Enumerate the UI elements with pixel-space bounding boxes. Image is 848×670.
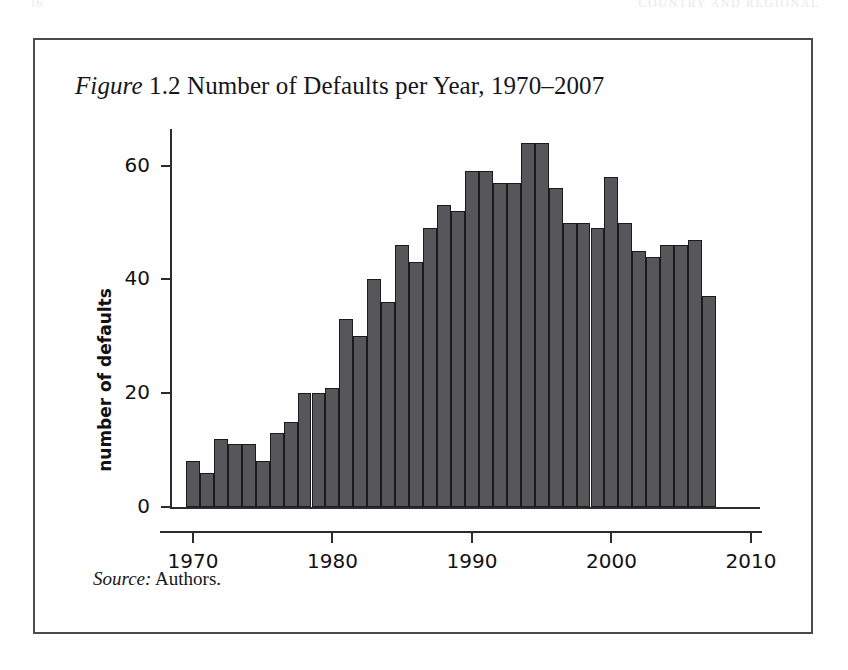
source-label: Source: (93, 568, 151, 589)
chart-bar (423, 228, 437, 507)
x-axis-zero-line (170, 507, 760, 509)
chart-bar (507, 183, 521, 507)
chart-plot-area: number of defaults 020406019701980199020… (35, 40, 815, 636)
chart-bar (549, 188, 563, 507)
chart-bar (674, 245, 688, 507)
chart-bar (228, 444, 242, 507)
chart-bar (437, 205, 451, 507)
y-axis-tick (161, 392, 171, 394)
chart-bar (577, 223, 591, 508)
chart-bar (381, 302, 395, 507)
x-axis-line (160, 531, 762, 533)
chart-bar (186, 461, 200, 507)
chart-bar (367, 279, 381, 507)
y-axis-tick-label: 60 (104, 153, 150, 177)
chart-bar (632, 251, 646, 507)
chart-bar (591, 228, 605, 507)
chart-bar (312, 393, 326, 507)
chart-bar (214, 439, 228, 507)
x-axis-tick (750, 533, 752, 543)
x-axis-tick (331, 533, 333, 543)
chart-bar (493, 183, 507, 507)
source-value: Authors. (155, 568, 221, 589)
chart-bar (242, 444, 256, 507)
figure-frame: Figure 1.2 Number of Defaults per Year, … (33, 38, 813, 634)
chart-bar (535, 143, 549, 507)
y-axis-tick-label: 0 (104, 494, 150, 518)
chart-bar (395, 245, 409, 507)
running-head-title: COUNTRY AND REGIONAL (638, 0, 820, 11)
chart-bar (688, 240, 702, 507)
x-axis-tick-label: 1980 (292, 549, 372, 573)
y-axis-tick-label: 40 (104, 266, 150, 290)
chart-bar (702, 296, 716, 507)
chart-bar (618, 223, 632, 508)
y-axis-tick (161, 165, 171, 167)
chart-bar (521, 143, 535, 507)
chart-bar (325, 388, 339, 507)
chart-bar (270, 433, 284, 507)
chart-bar (660, 245, 674, 507)
chart-bar (479, 171, 493, 507)
chart-bar (451, 211, 465, 507)
x-axis-tick-label: 2000 (571, 549, 651, 573)
y-axis-line (170, 129, 172, 507)
x-axis-tick (610, 533, 612, 543)
chart-bar (339, 319, 353, 507)
y-axis-tick (161, 278, 171, 280)
x-axis-tick-label: 1990 (432, 549, 512, 573)
page-running-head: 16 COUNTRY AND REGIONAL (0, 0, 848, 12)
chart-bar (563, 223, 577, 508)
chart-bar (200, 473, 214, 507)
x-axis-tick-label: 2010 (711, 549, 791, 573)
y-axis-tick-label: 20 (104, 380, 150, 404)
chart-bar (353, 336, 367, 507)
chart-bar (646, 257, 660, 507)
chart-bar (604, 177, 618, 507)
x-axis-tick (471, 533, 473, 543)
running-head-page-number: 16 (30, 0, 43, 11)
chart-bar (256, 461, 270, 507)
chart-bar (284, 422, 298, 507)
chart-bar (465, 171, 479, 507)
chart-bar (409, 262, 423, 507)
source-note: Source: Authors. (93, 568, 221, 590)
chart-bar (298, 393, 312, 507)
x-axis-tick (192, 533, 194, 543)
